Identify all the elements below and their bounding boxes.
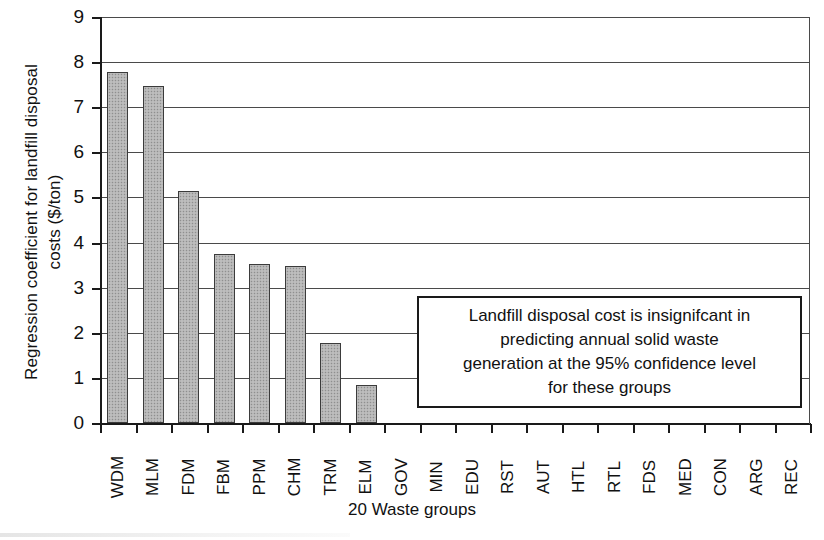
gridline [100,17,810,18]
x-tick-mark [384,424,386,433]
x-tick-mark [313,424,315,433]
gridline [100,197,810,198]
x-tick-mark [810,424,812,433]
x-tick-mark [704,424,706,433]
gridline [100,152,810,153]
annotation-line-3: generation at the 95% confidence level [463,352,756,376]
y-tick-label: 5 [44,187,84,206]
bar [285,266,306,423]
x-tick-mark [207,424,209,433]
x-tick-mark [136,424,138,433]
y-tick-label: 2 [44,323,84,342]
x-tick-mark [775,424,777,433]
plot-right-border [809,17,810,424]
x-tick-mark [526,424,528,433]
y-tick-label: 1 [44,368,84,387]
x-tick-mark [739,424,741,433]
gridline [100,288,810,289]
y-tick-label: 4 [44,233,84,252]
x-tick-mark [171,424,173,433]
y-axis-line [100,17,102,424]
bar [107,72,128,423]
y-tick-label: 9 [44,7,84,26]
x-tick-mark [455,424,457,433]
x-tick-mark [278,424,280,433]
x-tick-mark [420,424,422,433]
x-tick-mark [491,424,493,433]
bar [249,264,270,423]
bar [178,191,199,423]
y-tick-label: 0 [44,413,84,432]
insignificance-note: Landfill disposal cost is insignifcant i… [417,296,802,408]
gridline [100,243,810,244]
x-tick-mark [597,424,599,433]
y-tick-label: 8 [44,52,84,71]
x-axis-title: 20 Waste groups [0,500,824,520]
x-tick-mark [349,424,351,433]
chart-figure: Regression coefficient for landfill disp… [0,0,824,540]
y-tick-label: 3 [44,278,84,297]
y-axis-title-line-1: Regression coefficient for landfill disp… [20,64,43,380]
bar [143,86,164,423]
x-tick-mark [242,424,244,433]
annotation-line-2: predicting annual solid waste [500,328,718,352]
bar [214,254,235,423]
gridline [100,62,810,63]
annotation-line-1: Landfill disposal cost is insignifcant i… [469,304,751,328]
scan-artifact [0,533,350,537]
bar [356,385,377,423]
x-tick-mark [633,424,635,433]
y-tick-label: 6 [44,142,84,161]
gridline [100,107,810,108]
y-tick-label: 7 [44,97,84,116]
x-tick-mark [100,424,102,433]
annotation-line-4: for these groups [548,376,671,400]
bar [320,343,341,423]
x-tick-mark [668,424,670,433]
x-tick-mark [562,424,564,433]
